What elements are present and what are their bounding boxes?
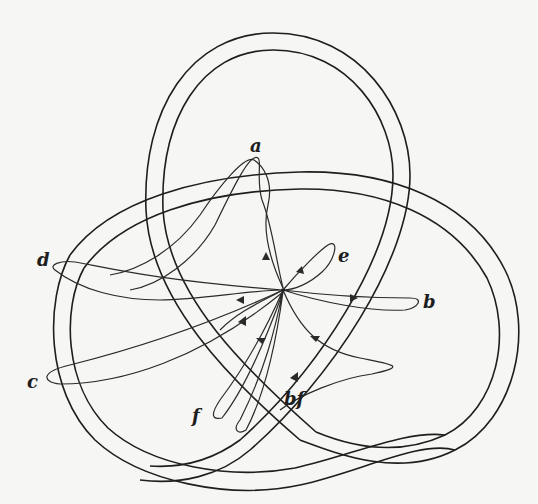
loop-a (110, 159, 283, 288)
loop-e (283, 244, 335, 290)
label-b: b (423, 291, 436, 312)
arrow-b-icon (350, 294, 358, 302)
arrow-up-icon (262, 252, 270, 260)
loop-a-return (130, 157, 283, 290)
fundamental-group-loops (47, 157, 419, 432)
band-right-lobe-outer (70, 172, 519, 463)
knot-band (54, 33, 519, 490)
loop-c (47, 290, 283, 384)
basepoint (281, 288, 285, 292)
trefoil-knot-diagram: a b c d e f bf (0, 0, 538, 504)
arrow-d-icon (236, 296, 244, 304)
band-left-lobe-outer (54, 255, 455, 490)
arrow-e-icon (296, 266, 304, 274)
label-e: e (338, 245, 349, 266)
label-a: a (250, 135, 262, 156)
loop-d (53, 262, 283, 300)
label-d: d (37, 249, 50, 270)
arrow-bf-return-icon (290, 372, 298, 382)
label-bf: bf (284, 388, 308, 409)
label-f: f (190, 405, 203, 426)
label-c: c (27, 371, 38, 392)
